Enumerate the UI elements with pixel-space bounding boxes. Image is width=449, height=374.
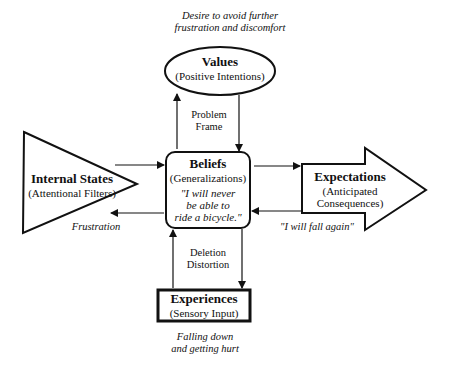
fall-again-note: "I will fall again" <box>262 221 372 233</box>
internal-states-title: Internal States <box>22 172 122 187</box>
values-title: Values <box>165 55 275 70</box>
expectations-subtitle-line1: (Anticipated <box>305 185 395 197</box>
problem-frame-line1: Problem <box>180 109 238 121</box>
beliefs-quote-line2: be able to <box>166 199 250 211</box>
values-label: Values (Positive Intentions) <box>165 55 275 82</box>
distortion-line: Distortion <box>176 259 240 271</box>
frustration-note: Frustration <box>66 221 126 233</box>
beliefs-quote-line1: "I will never <box>166 187 250 199</box>
beliefs-title: Beliefs <box>166 157 250 172</box>
values-note-line2: frustration and discomfort <box>150 22 310 34</box>
experiences-label: Experiences (Sensory Input) <box>158 292 250 319</box>
expectations-title: Expectations <box>305 170 395 185</box>
internal-states-subtitle: (Attentional Filters) <box>22 187 122 199</box>
problem-frame-label: Problem Frame <box>180 109 238 133</box>
deletion-distortion-label: Deletion Distortion <box>176 247 240 271</box>
beliefs-label: Beliefs (Generalizations) "I will never … <box>166 157 250 224</box>
deletion-line: Deletion <box>176 247 240 259</box>
expectations-subtitle-line2: Consequences) <box>305 197 395 209</box>
beliefs-quote-line3: ride a bicycle." <box>166 211 250 223</box>
experiences-title: Experiences <box>158 292 250 307</box>
values-note-line1: Desire to avoid further <box>150 10 310 22</box>
expectations-label: Expectations (Anticipated Consequences) <box>305 170 395 209</box>
experiences-note-line2: and getting hurt <box>150 343 260 355</box>
belief-system-diagram: Desire to avoid further frustration and … <box>0 0 449 374</box>
experiences-note-line1: Falling down <box>150 331 260 343</box>
values-note: Desire to avoid further frustration and … <box>150 10 310 34</box>
beliefs-subtitle: (Generalizations) <box>166 172 250 184</box>
internal-states-label: Internal States (Attentional Filters) <box>22 172 122 199</box>
values-subtitle: (Positive Intentions) <box>165 70 275 82</box>
experiences-subtitle: (Sensory Input) <box>158 307 250 319</box>
problem-frame-line2: Frame <box>180 121 238 133</box>
experiences-note: Falling down and getting hurt <box>150 331 260 355</box>
